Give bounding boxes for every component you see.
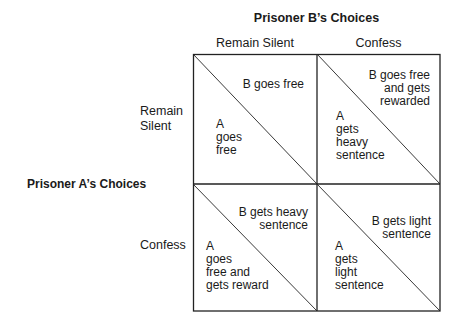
cell-silent-confess-a-outcome: A gets heavy sentence (336, 110, 385, 162)
cell-diagonal (193, 54, 317, 184)
cell-confess-confess-b-outcome: B gets light sentence (345, 215, 431, 241)
cell-confess-silent-b-outcome: B gets heavy sentence (225, 206, 308, 232)
cell-silent-confess-b-outcome: B goes free and gets rewarded (340, 69, 430, 108)
cell-confess-confess-a-outcome: A gets light sentence (335, 240, 384, 292)
cell-confess-silent-a-outcome: A goes free and gets reward (206, 240, 269, 292)
cell-silent-silent-b-outcome: B goes free (230, 78, 304, 91)
cell-silent-silent-a-outcome: A goes free (216, 118, 242, 157)
